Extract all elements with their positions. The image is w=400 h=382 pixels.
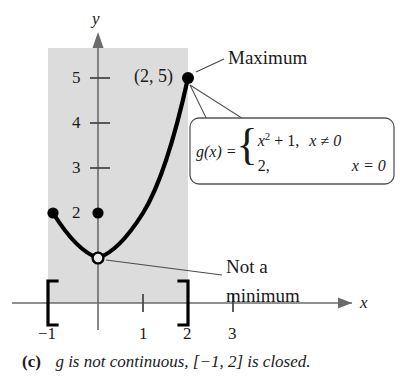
point-value-at-zero bbox=[92, 207, 103, 218]
y-axis-arrow bbox=[93, 32, 104, 48]
x-axis-label: x bbox=[360, 294, 368, 311]
branch-1-expression-tail: + 1, bbox=[270, 132, 299, 149]
maximum-annotation: Maximum bbox=[228, 48, 307, 67]
y-tick-label-5: 5 bbox=[72, 69, 81, 86]
max-coordinate-label: (2, 5) bbox=[134, 67, 173, 85]
point-maximum bbox=[182, 72, 194, 84]
graph-canvas bbox=[0, 0, 400, 382]
x-tick-label-3: 3 bbox=[228, 325, 237, 342]
not-a-minimum-annotation-line2: minimum bbox=[226, 286, 300, 305]
piecewise-branches: x2 + 1, x ≠ 0 2, x = 0 bbox=[258, 128, 386, 178]
x-tick-label-2: 2 bbox=[183, 325, 192, 342]
shaded-domain-band bbox=[48, 48, 188, 303]
branch-1-expression-base: x bbox=[258, 132, 265, 149]
piecewise-brace: { bbox=[237, 120, 258, 169]
point-left-endpoint bbox=[47, 207, 58, 218]
piecewise-branch-1: x2 + 1, x ≠ 0 bbox=[258, 128, 386, 153]
x-axis-arrow bbox=[338, 298, 352, 309]
branch-1-condition: x ≠ 0 bbox=[303, 128, 371, 153]
branch-2-condition: x = 0 bbox=[318, 153, 386, 178]
point-removed-open-circle bbox=[93, 253, 104, 264]
x-tick-label-minus1: −1 bbox=[38, 325, 56, 342]
x-tick-label-1: 1 bbox=[139, 325, 148, 342]
branch-2-expression-base: 2, bbox=[258, 157, 270, 174]
figure-caption: (c) g is not continuous, [−1, 2] is clos… bbox=[22, 352, 311, 372]
caption-label: (c) bbox=[22, 352, 41, 371]
y-tick-label-4: 4 bbox=[72, 114, 81, 131]
caption-text: g is not continuous, [−1, 2] is closed. bbox=[55, 352, 310, 371]
not-a-minimum-annotation-line1: Not a bbox=[226, 257, 268, 276]
y-tick-label-2: 2 bbox=[72, 204, 81, 221]
function-graph-figure: y x 5 4 3 2 −1 1 2 3 (2, 5) Maximum Not … bbox=[0, 0, 400, 382]
y-tick-label-3: 3 bbox=[72, 159, 81, 176]
piecewise-branch-2: 2, x = 0 bbox=[258, 153, 386, 178]
piecewise-function-callout: g(x) ={ x2 + 1, x ≠ 0 2, x = 0 bbox=[196, 128, 386, 178]
y-axis-label: y bbox=[92, 10, 100, 27]
maximum-leader-line bbox=[196, 59, 224, 72]
function-name-label: g(x) = bbox=[196, 143, 237, 160]
